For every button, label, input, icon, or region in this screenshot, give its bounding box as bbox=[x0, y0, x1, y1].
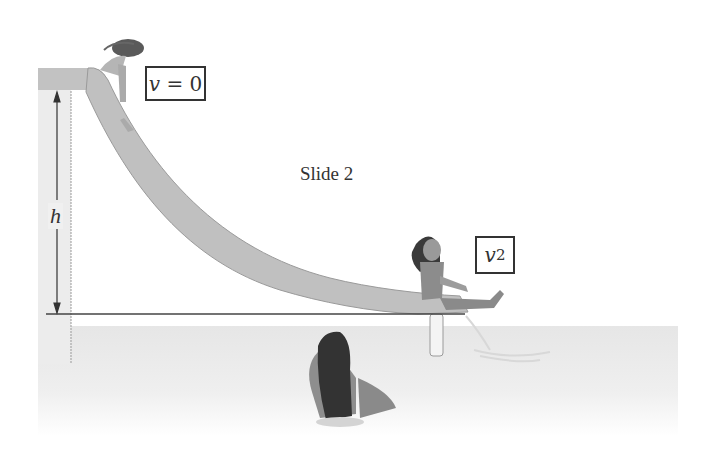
start-velocity-eq: = 0 bbox=[160, 72, 202, 96]
height-label: h bbox=[48, 203, 63, 229]
slide-support-pole bbox=[430, 314, 443, 356]
end-velocity-subscript: 2 bbox=[496, 246, 506, 264]
end-velocity-label: v2 bbox=[475, 236, 515, 274]
end-velocity-var: v bbox=[485, 243, 496, 267]
start-velocity-label: v = 0 bbox=[145, 66, 206, 101]
slide-physics-diagram: v = 0 Slide 2 h v2 bbox=[0, 0, 702, 464]
diagram-canvas bbox=[0, 0, 702, 464]
slide-chute bbox=[86, 68, 468, 314]
start-velocity-var: v bbox=[149, 72, 160, 96]
slide-title: Slide 2 bbox=[300, 163, 353, 185]
